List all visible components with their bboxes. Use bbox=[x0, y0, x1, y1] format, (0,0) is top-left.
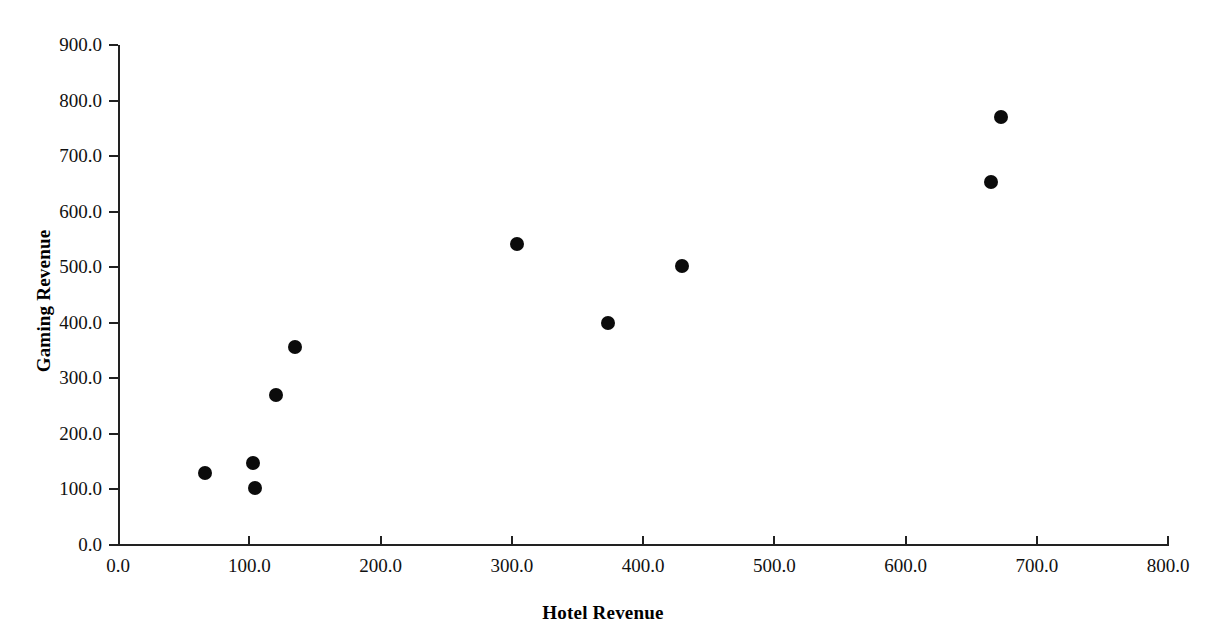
data-point bbox=[675, 259, 689, 273]
x-axis-title: Hotel Revenue bbox=[0, 602, 1206, 624]
data-point bbox=[198, 466, 212, 480]
data-point bbox=[269, 388, 283, 402]
data-point bbox=[510, 237, 524, 251]
plot-area bbox=[0, 0, 1206, 642]
data-point bbox=[246, 456, 260, 470]
data-point bbox=[984, 175, 998, 189]
data-point bbox=[994, 110, 1008, 124]
y-axis-title: Gaming Revenue bbox=[33, 161, 55, 441]
data-point bbox=[288, 340, 302, 354]
data-point bbox=[248, 481, 262, 495]
scatter-chart: 0.0100.0200.0300.0400.0500.0600.0700.080… bbox=[0, 0, 1206, 642]
data-point bbox=[601, 316, 615, 330]
